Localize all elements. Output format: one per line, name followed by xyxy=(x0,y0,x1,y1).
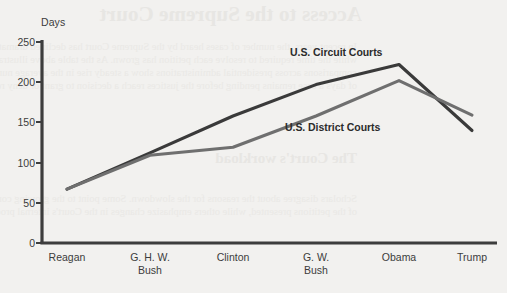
x-label-reagan: Reagan xyxy=(49,251,86,264)
series-line-us-district-courts xyxy=(67,81,472,190)
x-label-gw-bush: G. W. Bush xyxy=(303,251,329,277)
series-annotation-us-circuit-courts: U.S. Circuit Courts xyxy=(290,46,382,58)
x-label-ghw-bush: G. H. W. Bush xyxy=(130,251,170,277)
x-label-clinton: Clinton xyxy=(217,251,250,264)
series-annotation-us-district-courts: U.S. District Courts xyxy=(285,121,380,133)
plot-area xyxy=(0,0,507,293)
chart-page: Access to the Supreme Court In recent ye… xyxy=(0,0,507,293)
x-label-obama: Obama xyxy=(382,251,416,264)
line-chart: Days 250 200 150 100 50 0 U.S. Circuit C xyxy=(0,0,507,293)
x-label-trump: Trump xyxy=(457,251,487,264)
series-line-us-circuit-courts xyxy=(67,65,472,190)
